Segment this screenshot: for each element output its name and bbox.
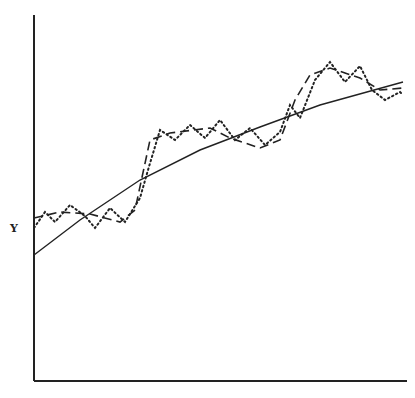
trend-line — [34, 82, 403, 255]
dotted-cycle-line — [34, 62, 403, 228]
y-axis-label: Y — [10, 222, 18, 235]
chart-canvas — [0, 0, 415, 398]
dashed-cycle-line — [34, 68, 403, 222]
